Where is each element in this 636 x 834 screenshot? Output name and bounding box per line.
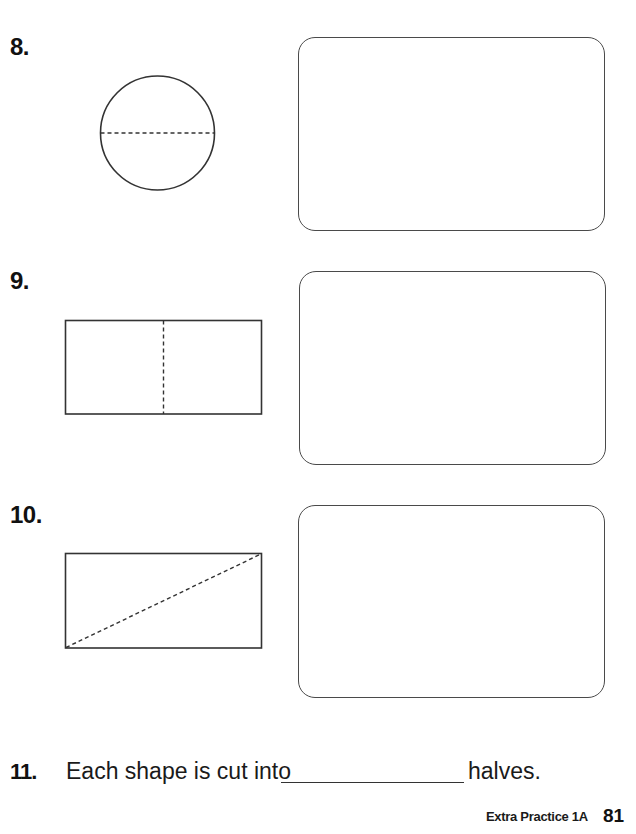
answer-blank-line[interactable] xyxy=(281,782,464,783)
rectangle-shape-diagonal-cut xyxy=(64,552,264,650)
page-number: 81 xyxy=(603,805,624,827)
question-number-9: 9. xyxy=(10,269,29,293)
statement-text-before: Each shape is cut into xyxy=(66,757,291,785)
question-number-8: 8. xyxy=(10,35,29,59)
circle-shape-halved xyxy=(95,70,221,196)
footer-section-label: Extra Practice 1A xyxy=(486,809,588,825)
answer-box-8[interactable] xyxy=(298,37,605,231)
question-number-10: 10. xyxy=(10,503,42,527)
rectangle-diagonal-cut-line xyxy=(66,554,261,648)
answer-box-10[interactable] xyxy=(298,505,605,698)
statement-text-after: halves. xyxy=(468,757,541,785)
question-number-11: 11. xyxy=(10,760,36,784)
answer-box-9[interactable] xyxy=(299,271,606,465)
rectangle-shape-vertical-cut xyxy=(64,319,264,416)
